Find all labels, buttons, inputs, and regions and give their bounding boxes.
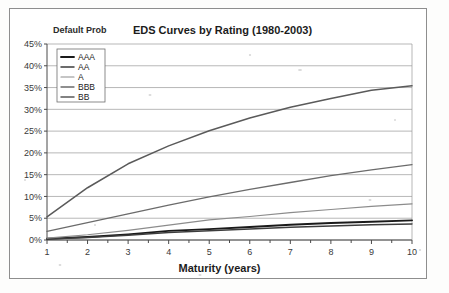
x-axis-title: Maturity (years) [179,262,261,274]
xtick-label-2: 2 [85,247,90,257]
xtick-label-8: 8 [328,247,333,257]
ytick-label-40%: 40% [24,61,42,71]
xtick-label-4: 4 [166,247,171,257]
scan-speck [94,224,96,226]
scan-speck [419,249,421,251]
legend-label-BB: BB [78,92,90,102]
ytick-label-45%: 45% [24,39,42,49]
legend-label-BBB: BBB [78,82,95,92]
ytick-label-0%: 0% [29,235,42,245]
ytick-label-25%: 25% [24,126,42,136]
scan-speck [149,94,152,96]
ytick-label-5%: 5% [29,213,42,223]
eds-curves-line-chart: 0%5%10%15%20%25%30%35%40%45%12345678910D… [0,0,449,293]
scan-speck [298,69,302,71]
chart-canvas: 0%5%10%15%20%25%30%35%40%45%12345678910D… [0,0,449,293]
scan-speck [394,119,396,121]
scan-speck [59,264,62,266]
xtick-label-7: 7 [288,247,293,257]
scan-speck [369,199,372,201]
legend-label-AA: AA [78,62,90,72]
legend-label-A: A [78,72,84,82]
ytick-label-20%: 20% [24,148,42,158]
scan-speck [198,274,201,276]
ytick-label-15%: 15% [24,170,42,180]
xtick-label-5: 5 [207,247,212,257]
legend-label-AAA: AAA [78,52,95,62]
scan-speck [24,179,26,181]
scan-speck [249,54,251,56]
xtick-label-9: 9 [369,247,374,257]
xtick-label-1: 1 [44,247,49,257]
xtick-label-10: 10 [407,247,417,257]
xtick-label-6: 6 [247,247,252,257]
xtick-label-3: 3 [126,247,131,257]
figure-root: 0%5%10%15%20%25%30%35%40%45%12345678910D… [0,0,449,293]
ytick-label-35%: 35% [24,83,42,93]
y-axis-title: Default Prob [53,25,107,35]
ytick-label-30%: 30% [24,105,42,115]
ytick-label-10%: 10% [24,192,42,202]
chart-title: EDS Curves by Rating (1980-2003) [133,24,312,36]
